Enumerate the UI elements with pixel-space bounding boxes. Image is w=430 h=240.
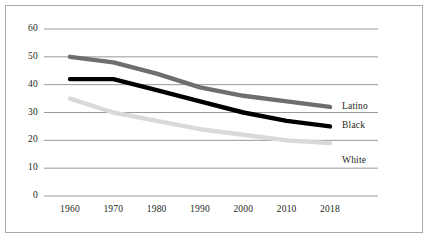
- x-tick-label: 1990: [178, 204, 222, 214]
- y-tick-label: 40: [12, 79, 38, 89]
- series-end-label-latino: Latino: [342, 101, 368, 111]
- series-end-label-white: White: [342, 155, 366, 165]
- y-tick-label: 10: [12, 162, 38, 172]
- gridlines: [44, 29, 378, 196]
- x-tick-label: 2010: [265, 204, 309, 214]
- y-tick-label: 30: [12, 107, 38, 117]
- series-end-label-black: Black: [342, 120, 365, 130]
- x-tick-label: 1980: [135, 204, 179, 214]
- y-tick-label: 60: [12, 23, 38, 33]
- x-tick-label: 1970: [91, 204, 135, 214]
- series-lines: [70, 57, 330, 143]
- x-tick-label: 2000: [221, 204, 265, 214]
- y-tick-label: 20: [12, 134, 38, 144]
- x-tick-label: 2018: [308, 204, 352, 214]
- y-tick-label: 0: [12, 190, 38, 200]
- x-tick-label: 1960: [48, 204, 92, 214]
- y-tick-label: 50: [12, 51, 38, 61]
